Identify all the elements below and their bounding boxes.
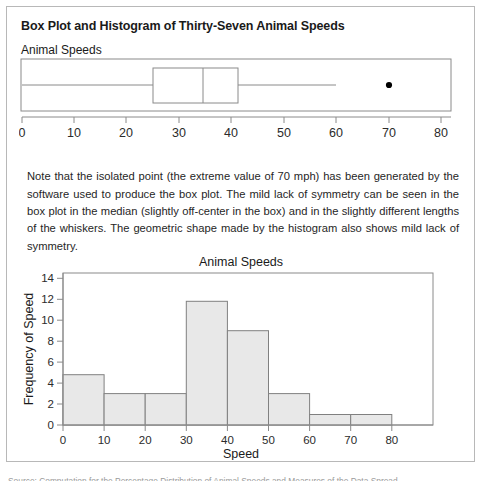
boxplot-xtick-8: 80 <box>434 126 448 140</box>
histogram-y-ticklabels: 0 2 4 6 8 10 12 14 <box>41 272 54 431</box>
histogram-x-ticklabels: 0 10 20 30 40 50 60 70 80 <box>60 434 398 446</box>
histogram-bar <box>63 375 104 425</box>
histogram-bar <box>310 415 351 426</box>
boxplot-x-ticks <box>22 117 441 123</box>
boxplot-xtick-5: 50 <box>277 126 291 140</box>
histogram-bar <box>186 301 227 425</box>
histogram-bar <box>351 415 392 426</box>
boxplot-xtick-7: 70 <box>382 126 396 140</box>
figure-card: Box Plot and Histogram of Thirty-Seven A… <box>6 6 475 462</box>
histogram-ytick-3: 6 <box>48 356 54 368</box>
boxplot-xtick-4: 40 <box>224 126 238 140</box>
box-iqr <box>153 68 238 103</box>
histogram-title: Animal Speeds <box>199 255 283 269</box>
box-plot-figure: 0 10 20 30 40 50 60 70 80 <box>19 57 465 145</box>
histogram-ytick-4: 8 <box>48 335 54 347</box>
histogram-bar <box>104 394 145 425</box>
histogram-bar <box>269 394 310 425</box>
note-paragraph: Note that the isolated point (the extrem… <box>27 168 459 255</box>
boxplot-xtick-2: 20 <box>119 126 133 140</box>
histogram-x-ticks <box>63 425 392 431</box>
histogram-svg: Animal Speeds <box>15 255 467 460</box>
histogram-xtick-6: 60 <box>303 434 316 446</box>
histogram-ytick-2: 4 <box>48 377 55 389</box>
histogram-ytick-6: 12 <box>41 293 54 305</box>
histogram-bar <box>145 394 186 425</box>
boxplot-x-ticklabels: 0 10 20 30 40 50 60 70 80 <box>19 126 448 140</box>
histogram-ytick-0: 0 <box>48 419 54 431</box>
boxplot-section-label: Animal Speeds <box>21 43 102 57</box>
box-plot-svg: 0 10 20 30 40 50 60 70 80 <box>19 57 465 145</box>
histogram-xtick-8: 80 <box>385 434 398 446</box>
histogram-xtick-2: 20 <box>139 434 152 446</box>
histogram-ytick-1: 2 <box>48 398 54 410</box>
boxplot-xtick-6: 60 <box>329 126 343 140</box>
histogram-y-ticks <box>57 278 63 425</box>
histogram-y-axis-label: Frequency of Speed <box>22 293 36 406</box>
histogram-xtick-7: 70 <box>344 434 357 446</box>
histogram-ytick-7: 14 <box>41 272 54 284</box>
histogram-xtick-3: 30 <box>180 434 193 446</box>
cut-off-source-caption: Source: Computation for the Percentage D… <box>8 472 476 481</box>
histogram-bar <box>227 331 268 425</box>
outlier-point <box>386 82 392 88</box>
histogram-xtick-5: 50 <box>262 434 275 446</box>
page-title: Box Plot and Histogram of Thirty-Seven A… <box>21 19 345 33</box>
histogram-ytick-5: 10 <box>41 314 54 326</box>
boxplot-xtick-0: 0 <box>19 126 26 140</box>
boxplot-xtick-1: 10 <box>67 126 81 140</box>
histogram-xtick-0: 0 <box>60 434 66 446</box>
histogram-bars <box>63 301 392 425</box>
histogram-xtick-4: 40 <box>221 434 234 446</box>
histogram-xtick-1: 10 <box>98 434 111 446</box>
histogram-figure: Animal Speeds <box>15 255 467 460</box>
histogram-x-axis-label: Speed <box>223 447 259 460</box>
boxplot-xtick-3: 30 <box>172 126 186 140</box>
